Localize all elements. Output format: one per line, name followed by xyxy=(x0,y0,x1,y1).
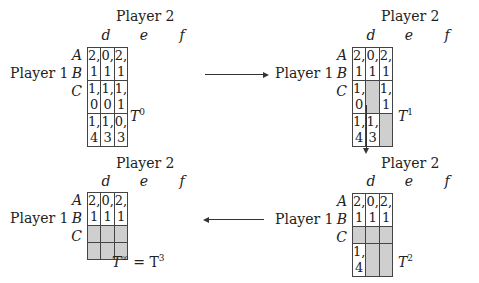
caption-t1: T1 xyxy=(398,107,413,124)
col-label-f: f xyxy=(428,173,466,189)
row-label-b: B xyxy=(68,65,82,81)
row-label-a: A xyxy=(333,47,347,63)
player1-label: Player 1 xyxy=(275,211,334,227)
payoff-cell xyxy=(114,226,127,243)
caption-tinf: T∞ = T3 xyxy=(112,253,165,270)
col-label-d: d xyxy=(87,27,125,43)
table-row: 2, 10, 12, 1 xyxy=(353,48,393,81)
payoff-cell xyxy=(366,81,379,114)
payoff-cell: 1, 1 xyxy=(379,81,392,114)
row-label-c: C xyxy=(333,83,347,99)
payoff-cell: 0, 1 xyxy=(101,193,114,226)
payoff-cell xyxy=(379,114,392,147)
payoff-table-t2: 2, 10, 12, 1 1, 4 xyxy=(352,193,393,277)
col-label-d: d xyxy=(352,173,390,189)
caption-t2: T2 xyxy=(398,253,413,270)
table-row: 2, 10, 12, 1 xyxy=(88,193,128,226)
col-label-e: e xyxy=(390,173,428,189)
payoff-cell: 1, 1 xyxy=(114,81,127,114)
row-label-c: C xyxy=(68,228,82,244)
arrow-left xyxy=(206,219,264,220)
caption-t0: T0 xyxy=(130,107,145,124)
player2-label: Player 2 xyxy=(381,155,440,171)
col-label-e: e xyxy=(125,173,163,189)
col-label-e: e xyxy=(125,27,163,43)
table-row: 1, 01, 01, 1 xyxy=(88,81,128,114)
table-row xyxy=(353,227,393,244)
payoff-cell xyxy=(88,243,101,260)
col-label-f: f xyxy=(428,27,466,43)
payoff-cell: 0, 3 xyxy=(114,114,127,147)
payoff-cell: 1, 0 xyxy=(353,81,366,114)
row-label-a: A xyxy=(68,47,82,63)
arrowhead-left-icon xyxy=(203,217,209,223)
payoff-cell xyxy=(366,227,379,244)
table-row xyxy=(88,226,128,243)
payoff-cell: 0, 1 xyxy=(366,194,379,227)
payoff-cell: 1, 0 xyxy=(101,81,114,114)
payoff-cell: 0, 1 xyxy=(101,48,114,81)
payoff-cell xyxy=(101,226,114,243)
payoff-cell: 0, 1 xyxy=(366,48,379,81)
col-label-f: f xyxy=(163,173,201,189)
arrow-right xyxy=(205,74,265,75)
player1-label: Player 1 xyxy=(10,65,69,81)
arrowhead-down-icon xyxy=(363,148,369,154)
col-label-d: d xyxy=(87,173,125,189)
row-label-a: A xyxy=(68,192,82,208)
payoff-table-tinf: 2, 10, 12, 1 xyxy=(87,192,128,260)
table-row: 1, 4 xyxy=(353,244,393,277)
table-row: 1, 41, 3 xyxy=(353,114,393,147)
col-label-f: f xyxy=(163,27,201,43)
payoff-cell: 2, 1 xyxy=(88,193,101,226)
payoff-cell xyxy=(379,227,392,244)
payoff-cell: 2, 1 xyxy=(88,48,101,81)
player1-label: Player 1 xyxy=(10,210,69,226)
payoff-cell: 1, 4 xyxy=(353,244,366,277)
table-row: 1, 01, 1 xyxy=(353,81,393,114)
player2-label: Player 2 xyxy=(116,155,175,171)
payoff-cell xyxy=(379,244,392,277)
payoff-cell: 1, 4 xyxy=(353,114,366,147)
player2-label: Player 2 xyxy=(381,8,440,24)
table-row: 2, 10, 12, 1 xyxy=(353,194,393,227)
row-label-b: B xyxy=(333,65,347,81)
payoff-cell xyxy=(88,226,101,243)
payoff-cell: 1, 4 xyxy=(88,114,101,147)
payoff-table-t1: 2, 10, 12, 1 1, 01, 1 1, 41, 3 xyxy=(352,47,393,147)
payoff-cell xyxy=(366,244,379,277)
col-label-e: e xyxy=(390,27,428,43)
row-label-b: B xyxy=(333,211,347,227)
payoff-cell: 2, 1 xyxy=(379,48,392,81)
table-row: 2, 10, 12, 1 xyxy=(88,48,128,81)
table-row: 1, 41, 30, 3 xyxy=(88,114,128,147)
arrowhead-right-icon xyxy=(263,72,269,78)
payoff-cell: 2, 1 xyxy=(353,194,366,227)
payoff-table-t0: 2, 10, 12, 1 1, 01, 01, 1 1, 41, 30, 3 xyxy=(87,47,128,147)
payoff-cell: 1, 3 xyxy=(101,114,114,147)
col-label-d: d xyxy=(352,27,390,43)
row-label-b: B xyxy=(68,210,82,226)
row-label-c: C xyxy=(68,83,82,99)
payoff-cell: 2, 1 xyxy=(353,48,366,81)
arrow-down xyxy=(366,105,367,150)
payoff-cell: 1, 0 xyxy=(88,81,101,114)
payoff-cell: 2, 1 xyxy=(114,193,127,226)
row-label-c: C xyxy=(333,229,347,245)
payoff-cell: 1, 3 xyxy=(366,114,379,147)
player2-label: Player 2 xyxy=(116,8,175,24)
payoff-cell: 2, 1 xyxy=(379,194,392,227)
player1-label: Player 1 xyxy=(275,65,334,81)
payoff-cell: 2, 1 xyxy=(114,48,127,81)
payoff-cell xyxy=(353,227,366,244)
row-label-a: A xyxy=(333,193,347,209)
